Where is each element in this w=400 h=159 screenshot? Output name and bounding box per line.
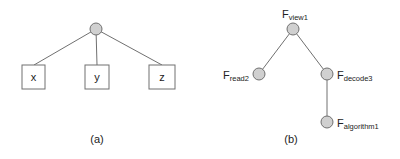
figure-b: Fview1 Fread2 Fdecode3 Falgorithm1 (b) [223,8,379,145]
leaf-label-y: y [94,71,100,83]
leaf-label-z: z [159,71,165,83]
label-algorithm1: Falgorithm1 [337,117,379,131]
edge-root-x [34,29,96,65]
node-read2 [253,68,265,80]
node-view1 [287,23,299,35]
label-read2: Fread2 [223,69,249,83]
root-node [90,23,102,35]
label-view1: Fview1 [282,8,308,22]
caption-b: (b) [284,133,297,145]
caption-a: (a) [90,133,103,145]
edge-view-read [259,29,293,74]
figure-a: x y z (a) [22,23,175,145]
node-decode3 [321,68,333,80]
label-decode3: Fdecode3 [337,69,373,83]
leaf-label-x: x [31,71,37,83]
node-algorithm1 [321,116,333,128]
edge-root-z [96,29,162,65]
diagram-canvas: x y z (a) Fview1 Fread2 Fdecode3 Falgori… [0,0,400,159]
edge-view-decode [293,29,327,74]
